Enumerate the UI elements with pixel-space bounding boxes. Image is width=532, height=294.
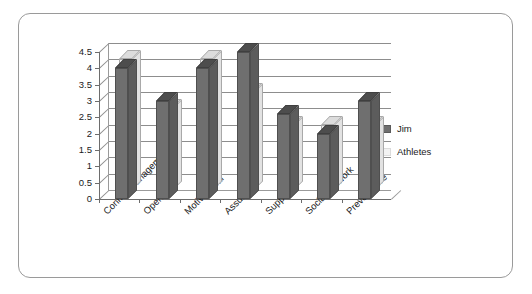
y-axis-tick-label-text: 4.5 <box>59 47 92 57</box>
x-axis-tick <box>99 199 100 203</box>
y-axis-tick-label: 3.5 <box>59 80 92 90</box>
x-axis-tick <box>261 199 262 203</box>
x-axis-tick <box>301 199 302 203</box>
bar-top-face <box>237 43 250 52</box>
bar-front-face <box>115 68 128 199</box>
bar-front-face <box>196 68 209 199</box>
legend-item-label: Jim <box>397 124 412 134</box>
y-axis-tick-label: 4 <box>59 63 92 73</box>
bar-jim-preventative[interactable] <box>358 101 371 199</box>
y-axis-tick-label: 2 <box>59 129 92 139</box>
x-axis-tick <box>220 199 221 203</box>
bar-side-face <box>330 134 339 199</box>
bar-side-face <box>169 101 178 199</box>
y-axis-tick-label: 1 <box>59 161 92 171</box>
y-axis-tick-label: 0.5 <box>59 178 92 188</box>
floor-right-edge <box>391 190 401 200</box>
legend-item-jim[interactable]: Jim <box>383 124 493 134</box>
y-axis-tick-label-text: 3 <box>59 96 92 106</box>
y-axis-tick-label-text: 0.5 <box>59 178 92 188</box>
y-axis-tick-label-text: 4 <box>59 63 92 73</box>
bar-jim-motivational[interactable] <box>196 68 209 199</box>
bar-front-face <box>156 101 169 199</box>
bar-top-face <box>358 92 371 101</box>
y-axis-tick-label: 2.5 <box>59 112 92 122</box>
y-axis-line <box>99 52 100 200</box>
legend-item-athletes[interactable]: Athletes <box>383 147 493 157</box>
bar-side-face <box>290 114 299 199</box>
bar-side-face <box>250 52 259 199</box>
y-axis-tick-label-text: 2 <box>59 129 92 139</box>
x-axis-tick <box>180 199 181 203</box>
bar-front-face <box>317 134 330 199</box>
bar-jim-social-network[interactable] <box>317 134 330 199</box>
y-axis-tick-label-text: 1.5 <box>59 145 92 155</box>
screenshot-root: 00.511.522.533.544.5Conflict managementO… <box>0 0 532 294</box>
bar-top-face <box>196 59 209 68</box>
y-axis-tick-label-text: 3.5 <box>59 80 92 90</box>
x-axis-tick <box>139 199 140 203</box>
y-axis-tick-label: 0 <box>59 194 92 204</box>
bar-jim-assurance[interactable] <box>237 52 250 199</box>
bar-jim-conflict-management[interactable] <box>115 68 128 199</box>
legend-item-label: Athletes <box>397 147 431 157</box>
y-axis-tick-label: 3 <box>59 96 92 106</box>
bar-top-face <box>317 125 330 134</box>
bar-top-face <box>115 59 128 68</box>
bar-front-face <box>277 114 290 199</box>
bar-top-face <box>277 105 290 114</box>
bar-top-face <box>321 116 334 125</box>
bar-jim-support[interactable] <box>277 114 290 199</box>
bar-side-face <box>128 68 137 199</box>
bar-top-face <box>200 50 213 59</box>
chart-legend: JimAthletes <box>383 124 493 170</box>
bar-jim-openness[interactable] <box>156 101 169 199</box>
y-axis-tick-label: 4.5 <box>59 47 92 57</box>
bar-front-face <box>237 52 250 199</box>
y-axis-tick-label-text: 2.5 <box>59 112 92 122</box>
y-axis-back-line <box>108 43 109 191</box>
bar-top-face <box>156 92 169 101</box>
y-axis-tick-label-text: 0 <box>59 194 92 204</box>
x-axis-tick <box>342 199 343 203</box>
y-axis-tick-label: 1.5 <box>59 145 92 155</box>
bar-side-face <box>371 101 380 199</box>
y-axis-tick-label-text: 1 <box>59 161 92 171</box>
bar-side-face <box>209 68 218 199</box>
legend-swatch-icon <box>383 148 391 156</box>
legend-swatch-icon <box>383 125 391 133</box>
bar-top-face <box>119 50 132 59</box>
bar-front-face <box>358 101 371 199</box>
